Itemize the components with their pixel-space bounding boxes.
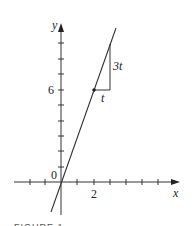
y-tick-label-6: 6 [48,83,54,97]
x-tick-label-2: 2 [91,187,97,201]
origin-label: 0 [51,168,57,182]
y-axis-label: y [51,18,58,32]
y-axis-arrow-icon [58,23,64,32]
point-2-6 [92,88,96,92]
rise-label: 3t [112,59,123,73]
figure-caption: FIGURE 1 [14,222,64,226]
run-label: t [101,91,105,105]
x-axis-label: x [172,186,179,200]
graph-figure: y x 0 2 6 3t t FIGURE 1 [0,0,196,226]
x-axis-arrow-icon [171,179,180,185]
